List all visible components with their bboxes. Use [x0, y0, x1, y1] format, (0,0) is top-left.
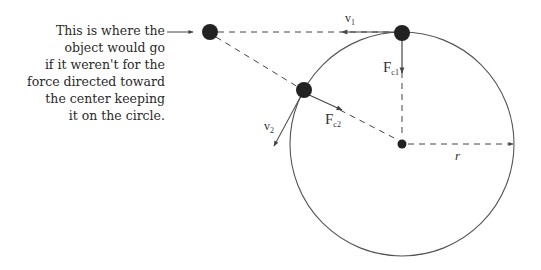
center-point [398, 140, 407, 149]
ball-position-2 [296, 82, 312, 98]
label-fc1: Fc1 [383, 59, 399, 77]
label-fc2: Fc2 [325, 111, 341, 129]
circular-motion-diagram: v1 Fc1 Fc2 v2 r [0, 0, 541, 270]
hypothetical-ball [202, 24, 218, 40]
label-v1: v1 [345, 11, 355, 27]
tangent-dashed-line-2 [216, 37, 298, 87]
label-radius: r [455, 148, 461, 163]
ball-position-1 [394, 25, 410, 41]
force-fc2-arrow [307, 94, 342, 110]
label-v2: v2 [264, 119, 274, 135]
velocity-v2-arrow [274, 94, 302, 146]
radius-dashed-line-2 [340, 110, 398, 140]
